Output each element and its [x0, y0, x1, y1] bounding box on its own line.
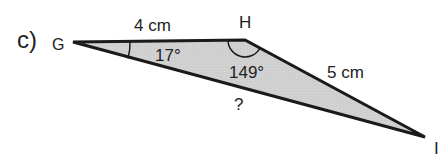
- vertex-g-label: G: [52, 36, 64, 53]
- side-gi-label: ?: [234, 95, 243, 114]
- vertex-h-label: H: [239, 13, 251, 32]
- angle-g-label: 17°: [155, 46, 181, 65]
- side-hi-label: 5 cm: [327, 63, 364, 82]
- vertex-i-label: I: [434, 139, 439, 158]
- problem-label: c): [17, 26, 37, 53]
- triangle-ghi: [73, 40, 425, 137]
- side-gh-label: 4 cm: [134, 16, 171, 35]
- triangle-diagram: c) G H I 4 cm 5 cm ? 17° 149°: [0, 0, 447, 166]
- angle-h-label: 149°: [229, 63, 264, 82]
